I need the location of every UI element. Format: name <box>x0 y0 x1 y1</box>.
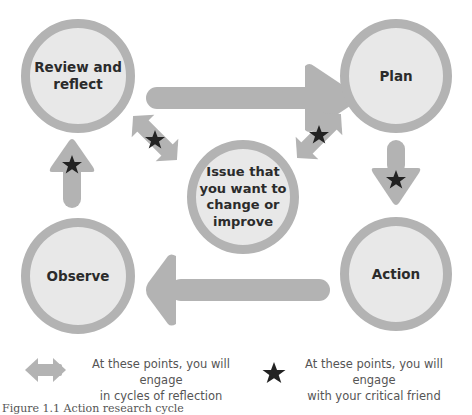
legend-reflection-text: At these points, you will engage in cycl… <box>76 356 246 404</box>
node-label-line: Review and <box>34 59 122 76</box>
node-label-line: change or <box>199 197 286 214</box>
legend-star-icon <box>263 362 286 383</box>
figure-caption: Figure 1.1 Action research cycle <box>2 402 184 415</box>
node-label-line: you want to <box>199 181 286 198</box>
node-label-line: Issue that <box>199 164 286 181</box>
node-observe: Observe <box>21 218 135 334</box>
node-label-line: reflect <box>34 76 122 93</box>
arrow-action-to-observe <box>146 255 330 326</box>
legend-line: At these points, you will engage <box>288 356 460 388</box>
arrow-observe-to-review <box>50 139 95 208</box>
node-issue-center: Issue that you want to change or improve <box>187 140 299 254</box>
node-label: Plan <box>379 68 412 85</box>
node-label-line: improve <box>199 214 286 231</box>
legend-double-arrow-icon <box>25 358 66 382</box>
legend-line: with your critical friend <box>288 388 460 404</box>
node-review-and-reflect: Review and reflect <box>21 19 135 133</box>
node-plan: Plan <box>340 19 452 133</box>
node-label: Action <box>372 266 420 283</box>
node-label: Observe <box>47 268 110 285</box>
node-action: Action <box>340 217 452 331</box>
legend-line: At these points, you will engage <box>76 356 246 388</box>
legend-critical-friend-text: At these points, you will engage with yo… <box>288 356 460 404</box>
